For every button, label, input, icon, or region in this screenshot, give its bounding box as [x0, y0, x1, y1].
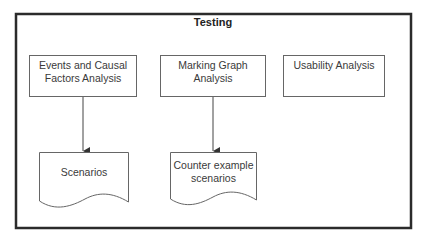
document-shape-scenarios: [40, 153, 129, 208]
process-label-marking-graph: Marking Graph Analysis: [161, 59, 265, 85]
label-line: scenarios: [171, 172, 256, 185]
label-line: Factors Analysis: [30, 72, 136, 85]
document-label-counter-example: Counter example scenarios: [171, 159, 256, 185]
document-label-scenarios: Scenarios: [40, 166, 128, 179]
diagram-canvas: [0, 0, 427, 242]
diagram-title: Testing: [163, 16, 263, 28]
label-line: Counter example: [171, 159, 256, 172]
process-label-events-causal: Events and Causal Factors Analysis: [30, 59, 136, 85]
process-label-usability: Usability Analysis: [284, 59, 384, 72]
label-line: Events and Causal: [30, 59, 136, 72]
